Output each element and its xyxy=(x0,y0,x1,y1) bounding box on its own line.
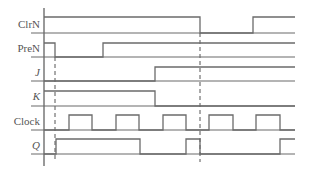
clrn-waveform xyxy=(44,17,295,33)
q-label: Q xyxy=(32,139,40,151)
pren-label: PreN xyxy=(17,42,40,54)
timing-diagram: ClrN PreN J K Clock Q xyxy=(0,0,312,177)
pren-waveform xyxy=(44,43,295,57)
clock-waveform xyxy=(44,115,295,130)
j-waveform xyxy=(44,67,295,81)
k-label: K xyxy=(32,90,41,102)
k-waveform xyxy=(44,91,295,106)
j-label: J xyxy=(35,66,41,78)
clock-label: Clock xyxy=(14,115,41,127)
clrn-label: ClrN xyxy=(18,18,40,30)
q-waveform xyxy=(44,139,295,154)
